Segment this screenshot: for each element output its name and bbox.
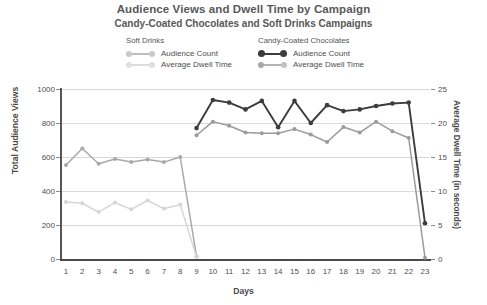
data-point: [374, 120, 378, 124]
x-axis-tick-label: 15: [290, 267, 299, 276]
data-point: [178, 155, 182, 159]
data-point: [308, 121, 313, 126]
data-point: [195, 255, 199, 259]
data-point: [341, 125, 345, 129]
data-point: [390, 101, 395, 106]
tick-mark: [56, 259, 60, 260]
x-axis-tick-label: 9: [194, 267, 198, 276]
data-point: [358, 131, 362, 135]
x-axis-tick-label: 10: [208, 267, 217, 276]
data-point: [162, 160, 166, 164]
y-axis-right-tick-label: 5: [438, 221, 442, 230]
data-point: [292, 127, 296, 131]
data-point: [195, 133, 199, 137]
data-point: [97, 210, 101, 214]
y-axis-right-tick-label: 25: [438, 85, 447, 94]
x-axis-title: Days: [0, 286, 487, 296]
data-point: [260, 131, 264, 135]
legend-group-candy-coated-chocolates: Candy-Coated Chocolates Audience Count A…: [258, 36, 364, 70]
legend-item-label: Audience Count: [293, 49, 350, 58]
series-layer: [62, 89, 429, 259]
x-axis-tick-label: 23: [421, 267, 430, 276]
legend-item-soft-drinks-audience-count[interactable]: Audience Count: [126, 48, 232, 59]
x-axis-tick-label: 21: [388, 267, 397, 276]
data-point: [292, 99, 297, 104]
x-axis-tick-label: 17: [323, 267, 332, 276]
tick-mark: [431, 157, 435, 158]
y-axis-left-title: Total Audience Views: [10, 87, 20, 174]
legend-heading: Candy-Coated Chocolates: [258, 36, 364, 45]
x-axis-tick-label: 20: [372, 267, 381, 276]
legend-item-label: Average Dwell Time: [161, 60, 232, 69]
y-axis-left-tick-label: 400: [42, 187, 55, 196]
x-axis-tick-label: 22: [404, 267, 413, 276]
data-point: [129, 207, 133, 211]
data-point: [276, 131, 280, 135]
data-point: [390, 129, 394, 133]
x-axis-tick-label: 11: [225, 267, 233, 276]
tick-mark: [56, 225, 60, 226]
data-point: [244, 131, 248, 135]
legend-line-marker-icon: [126, 60, 155, 69]
x-axis-tick-label: 14: [274, 267, 283, 276]
legend-heading: Soft Drinks: [126, 36, 232, 45]
data-point: [146, 158, 150, 162]
legend-group-soft-drinks: Soft Drinks Audience Count Average Dwell…: [126, 36, 232, 70]
x-axis-tick-label: 2: [80, 267, 84, 276]
data-point: [80, 147, 84, 151]
data-point: [80, 201, 84, 205]
legend-item-candy-audience-count[interactable]: Audience Count: [258, 48, 364, 59]
y-axis-right-tick-label: 20: [438, 119, 447, 128]
data-point: [113, 157, 117, 161]
series-soft-drinks-audience-count: [64, 147, 199, 259]
data-point: [423, 256, 427, 260]
x-axis-tick-label: 3: [96, 267, 100, 276]
x-axis-tick-label: 6: [145, 267, 149, 276]
tick-mark: [56, 157, 60, 158]
data-point: [227, 100, 232, 105]
x-axis-tick-label: 8: [178, 267, 182, 276]
x-axis-tick-label: 19: [355, 267, 364, 276]
data-point: [129, 160, 133, 164]
tick-mark: [431, 89, 435, 90]
legend-line-marker-icon: [258, 60, 287, 69]
y-axis-right-tick-label: 0: [438, 255, 442, 264]
tick-mark: [431, 225, 435, 226]
y-axis-right-title: Average Dwell Time (in seconds): [452, 100, 462, 229]
data-point: [407, 136, 411, 140]
data-point: [406, 100, 411, 105]
x-axis-tick-label: 7: [162, 267, 166, 276]
legend-item-candy-dwell-time[interactable]: Average Dwell Time: [258, 59, 364, 70]
x-axis-tick-label: 13: [257, 267, 266, 276]
data-point: [309, 133, 313, 137]
legend-item-soft-drinks-dwell-time[interactable]: Average Dwell Time: [126, 59, 232, 70]
tick-mark: [431, 123, 435, 124]
series-soft-drinks-average-dwell-time: [64, 199, 199, 259]
y-axis-left-tick-label: 0: [51, 255, 55, 264]
y-axis-left-tick-label: 600: [42, 153, 55, 162]
data-point: [260, 99, 265, 104]
data-point: [341, 109, 346, 114]
legend-line-marker-icon: [126, 49, 155, 58]
data-point: [146, 199, 150, 203]
data-point: [211, 98, 216, 103]
y-axis-right-title-line1: Average Dwell Time (in seconds): [452, 100, 462, 229]
legend-line-marker-icon: [258, 49, 287, 58]
x-axis-tick-label: 18: [339, 267, 348, 276]
data-point: [178, 203, 182, 207]
data-point: [357, 107, 362, 112]
x-axis-tick-label: 16: [306, 267, 315, 276]
tick-mark: [56, 191, 60, 192]
tick-mark: [56, 123, 60, 124]
data-point: [374, 104, 379, 109]
plot-area: 02004006008001000 0510152025 12345678910…: [62, 89, 429, 259]
chart-canvas: Audience Views and Dwell Time by Campaig…: [0, 0, 487, 305]
legend-item-label: Audience Count: [161, 49, 218, 58]
tick-mark: [56, 89, 60, 90]
data-point: [194, 126, 199, 131]
y-axis-left-tick-label: 200: [42, 221, 55, 230]
data-point: [64, 200, 68, 204]
y-axis-left-tick-label: 1000: [37, 85, 55, 94]
data-point: [325, 140, 329, 144]
x-axis-tick-label: 1: [64, 267, 68, 276]
